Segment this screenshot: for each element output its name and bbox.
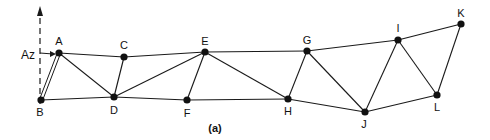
edge-E-H — [205, 52, 288, 99]
azimuth-label: Az — [21, 49, 35, 61]
node-I — [394, 36, 401, 43]
edge-F-H — [187, 99, 288, 100]
edge-K-L — [437, 24, 461, 95]
edge-I-L — [398, 40, 437, 95]
node-K — [457, 20, 464, 27]
node-B — [37, 96, 44, 103]
edge-A-D — [59, 53, 114, 97]
node-label-A: A — [55, 36, 62, 47]
edge-D-E — [114, 52, 205, 97]
edge-A-B — [40, 52, 58, 99]
node-label-H: H — [284, 106, 292, 117]
node-C — [120, 53, 127, 60]
edge-D-F — [114, 97, 187, 100]
network-canvas — [0, 0, 490, 140]
edge-B-D — [41, 97, 114, 100]
node-label-F: F — [184, 108, 191, 119]
edge-H-J — [288, 99, 365, 112]
baseline-double-edge — [40, 52, 61, 100]
figure-caption: (a) — [208, 122, 221, 134]
node-label-B: B — [36, 107, 43, 118]
node-J — [361, 108, 368, 115]
nodes-group — [37, 20, 464, 115]
node-label-J: J — [361, 119, 367, 130]
edge-E-G — [205, 51, 307, 52]
node-label-D: D — [110, 105, 118, 116]
node-label-L: L — [434, 102, 440, 113]
node-label-K: K — [457, 8, 464, 19]
node-E — [201, 48, 208, 55]
node-label-C: C — [120, 40, 128, 51]
edge-G-J — [307, 51, 365, 112]
edge-A-C — [59, 53, 124, 57]
edge-I-J — [365, 40, 398, 112]
node-D — [110, 93, 117, 100]
node-label-E: E — [201, 36, 208, 47]
node-A — [55, 49, 62, 56]
edge-A-B — [42, 54, 60, 101]
north-arrow-icon — [37, 6, 43, 16]
edge-G-I — [307, 40, 398, 51]
node-F — [183, 96, 190, 103]
node-label-G: G — [303, 35, 312, 46]
traverse-network-diagram: ABCDEFGHIJKL Az (a) — [0, 0, 490, 140]
edge-J-L — [365, 95, 437, 112]
node-L — [433, 91, 440, 98]
node-G — [303, 47, 310, 54]
azimuth-arrow-icon — [50, 51, 56, 57]
edge-G-H — [288, 51, 307, 99]
edge-C-D — [114, 57, 124, 97]
edge-C-E — [124, 52, 205, 57]
edge-I-K — [398, 24, 461, 40]
node-label-I: I — [396, 23, 399, 34]
node-H — [284, 95, 291, 102]
